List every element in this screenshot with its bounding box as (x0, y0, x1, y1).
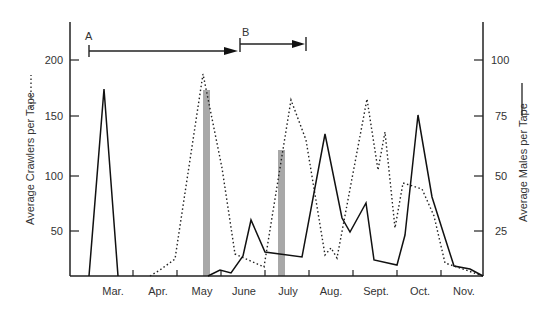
x-label-july: July (278, 285, 298, 297)
left-tick-50: 50 (51, 225, 63, 237)
x-label-june: June (232, 285, 256, 297)
annotation-a-arrowhead (224, 47, 238, 55)
crawlers-series-line (150, 74, 483, 276)
annotation-a-label: A (85, 30, 93, 42)
right-tick-50: 50 (495, 170, 507, 182)
left-ticks (70, 60, 79, 231)
left-tick-100: 100 (45, 170, 63, 182)
chart: 50 100 150 200 25 50 75 100 Mar. Apr. Ma… (0, 0, 552, 311)
x-ticks (133, 270, 441, 276)
shaded-bar-may (203, 90, 210, 276)
left-tick-150: 150 (45, 110, 63, 122)
left-axis-title: Average Crawlers per Tape (24, 92, 36, 225)
x-label-oct: Oct. (410, 285, 430, 297)
shaded-bar-july (278, 150, 285, 276)
x-label-aug: Aug. (320, 285, 343, 297)
right-tick-75: 75 (495, 110, 507, 122)
x-label-may: May (192, 285, 213, 297)
annotation-b-arrowhead (292, 40, 305, 48)
x-label-sept: Sept. (363, 285, 389, 297)
males-series-line (89, 89, 118, 276)
x-label-apr: Apr. (148, 285, 168, 297)
right-axis-title: Average Males per Tape (517, 103, 529, 222)
right-tick-100: 100 (491, 54, 509, 66)
x-label-nov: Nov. (453, 285, 475, 297)
males-series-line-2 (208, 115, 483, 276)
right-tick-25: 25 (495, 225, 507, 237)
left-tick-200: 200 (45, 54, 63, 66)
annotation-b-label: B (242, 26, 249, 38)
x-label-mar: Mar. (102, 285, 123, 297)
right-ticks (474, 60, 483, 231)
